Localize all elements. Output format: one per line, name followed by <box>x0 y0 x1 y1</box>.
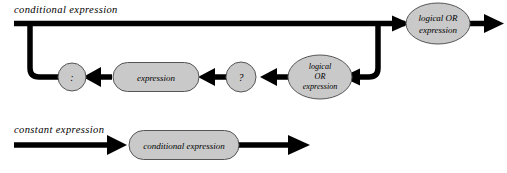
arrowhead-into-question <box>260 68 277 86</box>
node-logical-or-loop-line2: OR <box>315 72 326 81</box>
node-logical-or-right[interactable]: logical OR expression <box>406 3 470 44</box>
node-expression[interactable]: expression <box>113 63 199 92</box>
railroad-diagram-canvas: logical OR expression : expression ? log… <box>0 0 507 173</box>
node-expression-label: expression <box>137 73 176 83</box>
node-logical-or-right-shape <box>406 3 470 44</box>
node-logical-or-loop-line3: expression <box>303 82 338 91</box>
node-colon-token-label: : <box>70 72 73 83</box>
syntax-diagram: logical OR expression : expression ? log… <box>0 0 507 173</box>
arrowhead-exit-right <box>484 14 504 33</box>
rail-constant-exit <box>238 135 310 155</box>
node-conditional-expression-label: conditional expression <box>143 141 225 151</box>
arrowhead-into-conditional-expression <box>107 135 127 155</box>
node-logical-or-right-line2: expression <box>419 25 458 35</box>
node-conditional-expression[interactable]: conditional expression <box>129 131 239 160</box>
arrowhead-into-expression <box>198 68 215 86</box>
rail-constant-entry <box>14 135 127 155</box>
rail-question-to-expression <box>198 68 226 86</box>
rule-label-constant-expression: constant expression <box>14 124 104 135</box>
node-logical-or-loop[interactable]: logical OR expression <box>288 55 352 99</box>
rail-expression-to-colon <box>83 67 112 87</box>
rail-conditional-exit <box>470 14 504 33</box>
node-logical-or-loop-line1: logical <box>309 62 332 71</box>
rail-conditional-main <box>14 16 410 32</box>
node-colon-token[interactable]: : <box>58 63 86 91</box>
arrowhead-constant-exit <box>288 135 310 155</box>
rule-label-conditional-expression: conditional expression <box>14 4 118 15</box>
rail-logicalor-to-question <box>260 68 288 86</box>
node-question-token-label: ? <box>239 72 244 83</box>
node-question-token[interactable]: ? <box>226 62 256 92</box>
rail-loop-left-branch <box>30 24 60 78</box>
node-logical-or-right-line1: logical OR <box>418 13 458 23</box>
